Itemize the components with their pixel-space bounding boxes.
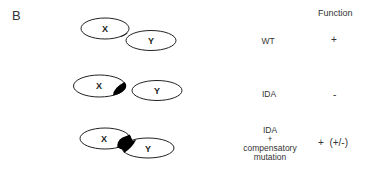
protein-x-label: X: [96, 81, 102, 91]
protein-y-label: Y: [154, 86, 160, 96]
condition-label-wt: WT: [258, 37, 278, 46]
protein-x-label: X: [102, 24, 108, 34]
function-value-ida: -: [333, 89, 336, 100]
protein-y-label: Y: [145, 144, 151, 154]
condition-label-compensatory: IDA + compensatory mutation: [240, 126, 300, 162]
function-value-wt: +: [331, 34, 337, 45]
protein-y-label: Y: [148, 36, 154, 46]
row-compensatory-proteins: X Y: [80, 128, 174, 158]
function-value-compensatory: + (+/-): [318, 137, 348, 148]
row-ida-proteins: X Y: [74, 75, 183, 101]
protein-x-label: X: [101, 134, 107, 144]
row-wt-proteins: X Y: [81, 18, 176, 51]
condition-label-ida: IDA: [258, 90, 280, 99]
